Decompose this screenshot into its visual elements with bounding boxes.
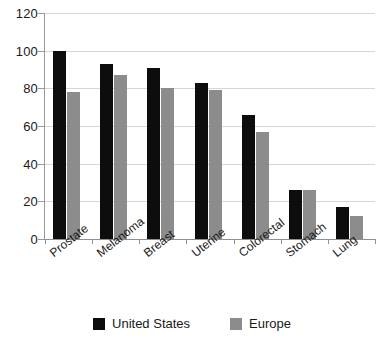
x-tick-5 — [281, 239, 282, 244]
x-label-prostate: Prostate — [48, 222, 91, 259]
x-label-lung: Lung — [331, 233, 359, 259]
y-tick-60 — [38, 126, 44, 127]
y-tick-80 — [38, 88, 44, 89]
x-label-colorectal: Colorectal — [236, 216, 286, 259]
y-tick-100 — [38, 51, 44, 52]
x-label-stomach: Stomach — [283, 220, 328, 259]
x-tick-1 — [92, 239, 93, 244]
y-tick-0 — [38, 239, 44, 240]
legend-swatch-europe — [230, 318, 242, 330]
x-tick-6 — [328, 239, 329, 244]
x-tick-3 — [186, 239, 187, 244]
legend-item-europe: Europe — [230, 317, 291, 330]
y-tick-120 — [38, 13, 44, 14]
y-tick-40 — [38, 164, 44, 165]
x-axis-category-labels: ProstateMelanomaBreastUterineColorectalS… — [0, 0, 384, 355]
legend-label-europe: Europe — [249, 317, 291, 330]
x-label-melanoma: Melanoma — [95, 215, 147, 259]
x-tick-0 — [45, 239, 46, 244]
x-label-breast: Breast — [142, 228, 177, 259]
legend-label-united-states: United States — [112, 317, 190, 330]
chart-legend: United States Europe — [0, 317, 384, 330]
bar-chart: 020406080100120 ProstateMelanomaBreastUt… — [0, 0, 384, 355]
x-tick-4 — [234, 239, 235, 244]
x-label-uterine: Uterine — [189, 226, 227, 259]
legend-item-united-states: United States — [93, 317, 190, 330]
x-tick-end — [375, 239, 376, 244]
legend-swatch-united-states — [93, 318, 105, 330]
x-tick-2 — [139, 239, 140, 244]
y-tick-20 — [38, 201, 44, 202]
